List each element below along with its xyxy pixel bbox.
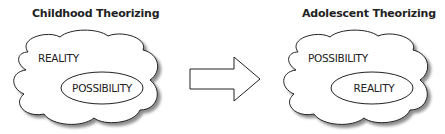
theorizing-diagram: REALITY POSSIBILITY POSSIBILITY REALITY — [0, 0, 445, 134]
childhood-outer-label: REALITY — [38, 52, 80, 64]
adolescent-inner-label: REALITY — [354, 82, 396, 94]
adolescent-outer-label: POSSIBILITY — [308, 52, 369, 64]
arrow-right-icon — [190, 57, 260, 101]
childhood-inner-label: POSSIBILITY — [72, 82, 133, 94]
